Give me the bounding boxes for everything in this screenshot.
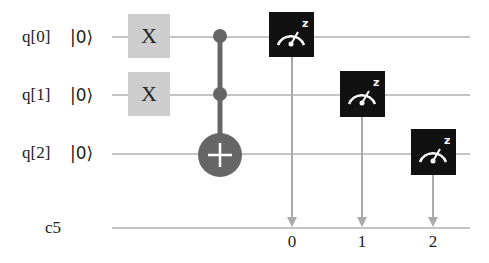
toffoli-gate[interactable]	[198, 29, 242, 177]
svg-text:z: z	[373, 76, 379, 89]
svg-text:z: z	[302, 17, 308, 30]
svg-text:z: z	[444, 134, 450, 147]
measure-gate-q1[interactable]: z	[340, 71, 385, 117]
measure-arrow-0	[287, 57, 297, 227]
measure-arrow-2	[428, 175, 438, 227]
control-dot-q1	[213, 87, 227, 101]
measure-gate-q0[interactable]: z	[269, 12, 314, 57]
measure-gate-q2[interactable]: z	[411, 129, 456, 175]
cbit-label-0: 0	[282, 232, 302, 252]
cbit-label-1: 1	[352, 232, 372, 252]
control-dot-q0	[213, 29, 227, 43]
cbit-label-2: 2	[423, 232, 443, 252]
meter-icon: z	[340, 71, 385, 117]
measure-arrow-1	[357, 117, 367, 227]
meter-icon: z	[411, 129, 456, 175]
meter-icon: z	[269, 12, 314, 57]
